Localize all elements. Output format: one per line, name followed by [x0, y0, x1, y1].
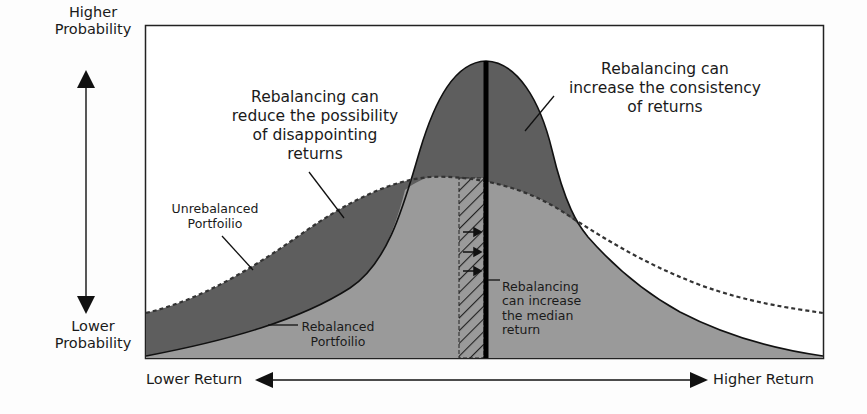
ann-left-line1: Rebalancing can [215, 88, 415, 107]
median-shift-hatch [459, 178, 484, 358]
ann-left-line4: returns [215, 145, 415, 164]
annotation-reduce-disappointing: Rebalancing can reduce the possibility o… [215, 88, 415, 164]
y-axis-bottom-label: Lower Probability [28, 318, 158, 353]
ann-right-line2: increase the consistency [565, 79, 765, 98]
median-line3: the median [502, 309, 581, 323]
ann-left-line3: of disappointing [215, 126, 415, 145]
reb-line1: Rebalanced [288, 319, 388, 334]
annotation-median-return: Rebalancing can increase the median retu… [502, 280, 581, 338]
ann-right-line1: Rebalancing can [565, 60, 765, 79]
y-bot-line2: Probability [28, 335, 158, 352]
label-unrebalanced-portfolio: Unrebalanced Portfoilio [155, 201, 275, 231]
reb-line2: Portfoilio [288, 334, 388, 349]
x-axis-left-label: Lower Return [146, 371, 242, 388]
return-axis-arrow [255, 372, 708, 388]
probability-axis-arrow [77, 70, 95, 314]
median-line1: Rebalancing [502, 280, 581, 294]
label-rebalanced-portfolio: Rebalanced Portfoilio [288, 319, 388, 349]
x-axis-right-label: Higher Return [713, 371, 814, 388]
median-line2: can increase [502, 294, 581, 308]
median-line4: return [502, 323, 581, 337]
y-axis-top-label: Higher Probability [28, 4, 158, 39]
ann-left-line2: reduce the possibility [215, 107, 415, 126]
unreb-line1: Unrebalanced [155, 201, 275, 216]
y-top-line1: Higher [28, 4, 158, 21]
unreb-line2: Portfoilio [155, 216, 275, 231]
annotation-increase-consistency: Rebalancing can increase the consistency… [565, 60, 765, 117]
y-top-line2: Probability [28, 21, 158, 38]
y-bot-line1: Lower [28, 318, 158, 335]
ann-right-line3: of returns [565, 98, 765, 117]
